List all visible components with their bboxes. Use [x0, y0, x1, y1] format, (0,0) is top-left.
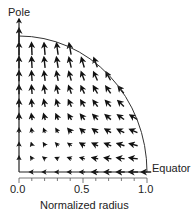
vector-arrow	[82, 59, 85, 68]
vector-arrow	[119, 130, 125, 133]
vector-arrow	[69, 158, 72, 159]
vector-arrow	[69, 130, 72, 133]
vector-arrow	[94, 116, 98, 120]
vector-arrow	[56, 158, 58, 159]
vector-arrow	[94, 130, 98, 133]
vector-arrow	[131, 144, 138, 146]
vector-arrow	[82, 87, 85, 93]
vector-arrow	[69, 59, 71, 68]
vector-arrow	[32, 58, 33, 68]
vector-arrow	[44, 87, 45, 94]
vector-arrow	[81, 144, 85, 146]
equator-label: Equator	[152, 162, 191, 174]
vector-arrow	[44, 101, 45, 107]
vector-field-arrows	[19, 30, 151, 172]
vector-arrow	[106, 102, 110, 107]
vector-arrow	[69, 45, 71, 55]
vector-arrow	[56, 144, 58, 146]
vector-arrow	[69, 144, 72, 146]
vector-arrow	[69, 101, 72, 107]
vector-arrow	[94, 87, 98, 93]
vector-arrow	[131, 130, 137, 133]
quiver-plot	[0, 0, 196, 215]
pole-label: Pole	[8, 6, 30, 18]
vector-arrow	[31, 101, 32, 107]
vector-arrow	[81, 158, 85, 159]
vector-arrow	[94, 101, 98, 106]
x-axis-label: Normalized radius	[40, 199, 129, 211]
vector-arrow	[119, 116, 124, 120]
vector-arrow	[106, 116, 111, 120]
vector-arrow	[94, 144, 99, 146]
vector-arrow	[44, 115, 45, 120]
vector-arrow	[118, 144, 124, 146]
vector-arrow	[44, 44, 45, 55]
vector-arrow	[44, 144, 46, 146]
vector-arrow	[56, 101, 58, 107]
vector-arrow	[81, 130, 85, 133]
vector-arrow	[69, 73, 71, 81]
vector-arrow	[31, 129, 32, 133]
vector-arrow	[31, 144, 32, 146]
vector-arrow	[69, 115, 72, 119]
vector-arrow	[31, 157, 32, 159]
x-tick-0-5: 0.5	[74, 183, 89, 195]
vector-arrow	[69, 87, 71, 94]
vector-arrow	[57, 73, 59, 81]
vector-arrow	[31, 115, 32, 120]
vector-arrow	[57, 59, 59, 68]
vector-arrow	[56, 129, 58, 132]
vector-arrow	[106, 158, 112, 159]
vector-arrow	[93, 158, 98, 159]
vector-arrow	[119, 102, 124, 107]
vector-arrow	[32, 73, 33, 82]
vector-arrow	[106, 144, 111, 146]
vector-arrow	[94, 73, 97, 80]
vector-arrow	[44, 58, 45, 67]
vector-arrow	[81, 101, 84, 106]
vector-arrow	[56, 115, 58, 120]
vector-arrow	[131, 158, 138, 159]
vector-arrow	[106, 130, 111, 133]
vector-arrow	[44, 73, 45, 81]
vector-arrow	[32, 87, 33, 94]
vector-arrow	[82, 73, 85, 80]
vector-arrow	[44, 158, 46, 159]
vector-arrow	[81, 115, 84, 119]
vector-arrow	[44, 129, 45, 133]
x-tick-1: 1.0	[138, 183, 153, 195]
vector-arrow	[118, 158, 124, 159]
vector-arrow	[57, 44, 58, 54]
vector-arrow	[57, 87, 59, 94]
vector-arrow	[107, 87, 111, 93]
x-tick-0: 0.0	[10, 183, 25, 195]
